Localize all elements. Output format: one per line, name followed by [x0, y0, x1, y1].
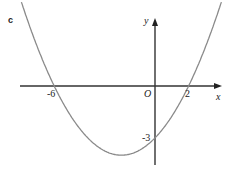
y-axis-label: y [144, 16, 148, 26]
x-intercept-pos-label: 2 [185, 89, 190, 99]
y-intercept-label: -3 [142, 133, 150, 143]
y-axis-arrow-icon [152, 18, 158, 26]
parabola-curve [21, 2, 221, 155]
x-intercept-neg-label: -6 [47, 89, 55, 99]
graph [0, 0, 234, 173]
x-axis-arrow-icon [214, 83, 222, 89]
x-axis-label: x [216, 92, 220, 102]
origin-label: O [144, 89, 151, 99]
